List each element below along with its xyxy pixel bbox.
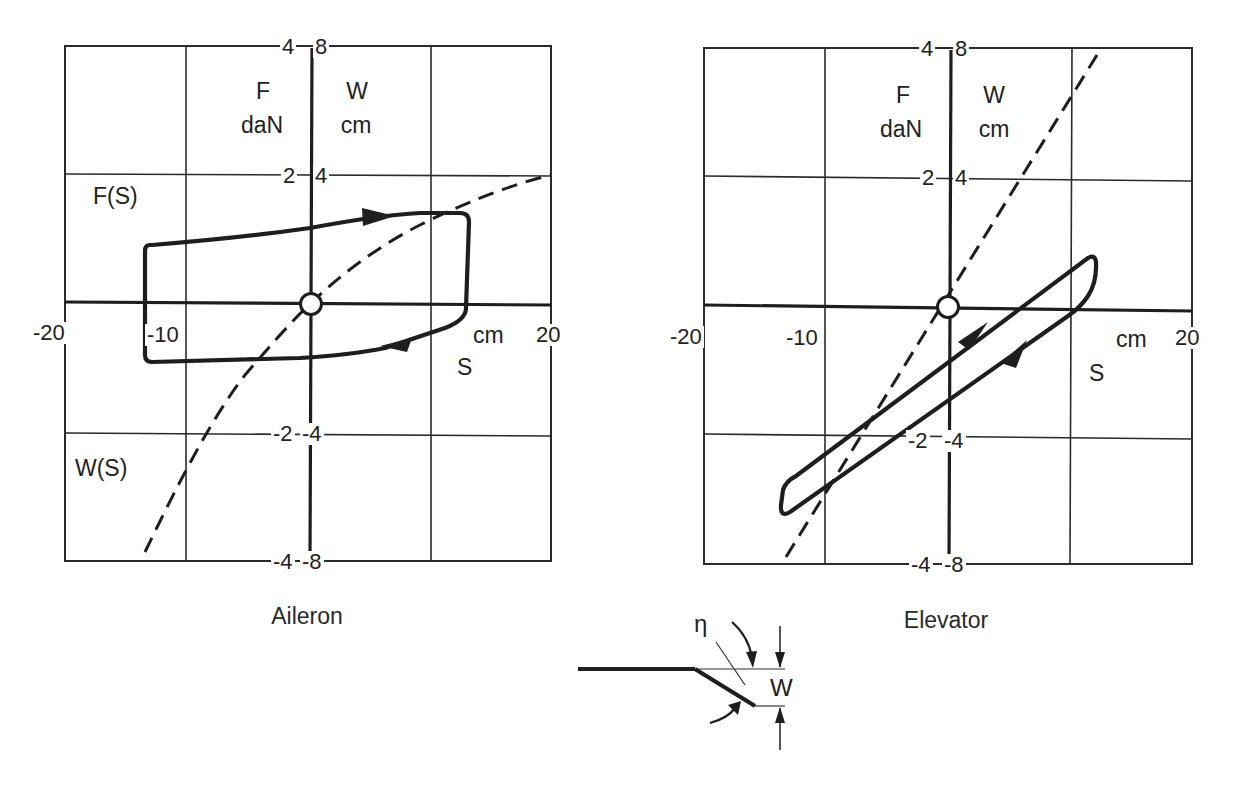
elevator-caption: Elevator: [904, 607, 988, 634]
eta-label: η: [694, 612, 707, 636]
elevator-w-tick-4: 4: [953, 167, 969, 189]
aileron-origin-marker: [301, 294, 322, 315]
deflection-inset: [578, 622, 785, 750]
elevator-f-symbol: F: [896, 84, 910, 107]
aileron-arrow-up-branch-icon: [362, 208, 395, 226]
eta-arrow-lower: [710, 708, 735, 723]
eta-arrowhead-upper-icon: [746, 651, 757, 668]
aileron-f-symbol: F: [256, 80, 270, 103]
elevator-f-tick-2: 2: [920, 167, 936, 189]
aileron-f-curve-label: F(S): [93, 185, 138, 208]
aileron-w-symbol: W: [346, 80, 368, 103]
aileron-w-tick-neg8: -8: [300, 551, 324, 573]
aileron-x-tick-neg20: -20: [31, 322, 67, 344]
elevator-w-tick-8: 8: [953, 38, 969, 60]
elevator-w-unit: cm: [979, 118, 1010, 141]
aileron-f-tick-neg4: -4: [271, 551, 295, 573]
eta-leader-line: [716, 642, 745, 685]
aileron-w-curve: [145, 175, 551, 552]
elevator-w-tick-neg4: -4: [942, 430, 966, 452]
aileron-x-tick-20: 20: [534, 324, 562, 346]
elevator-grid-x-pos10: [1070, 48, 1072, 564]
elevator-grid-y-2: [704, 176, 1192, 181]
aileron-grid-y-2: [65, 174, 551, 176]
aileron-f-tick-2: 2: [281, 165, 297, 187]
elevator-x-tick-neg20: -20: [668, 326, 704, 348]
surface-deflected-part: [695, 669, 755, 706]
aileron-w-curve-label: W(S): [75, 457, 127, 480]
elevator-origin-marker: [938, 297, 959, 318]
elevator-s-unit: cm: [1116, 328, 1147, 351]
figure-canvas: [0, 0, 1241, 789]
elevator-chart: [704, 48, 1192, 564]
aileron-f-unit: daN: [241, 114, 283, 137]
aileron-f-tick-neg2: -2: [271, 423, 295, 445]
aileron-w-tick-4: 4: [313, 165, 329, 187]
elevator-f-loop: [781, 257, 1096, 514]
w-label: W: [770, 676, 793, 700]
aileron-w-unit: cm: [341, 114, 372, 137]
w-arrowhead-upper-icon: [775, 652, 785, 668]
aileron-s-symbol: S: [457, 356, 472, 379]
aileron-f-tick-4: 4: [280, 36, 296, 58]
aileron-f-loop: [145, 213, 469, 362]
elevator-f-tick-neg4: -4: [909, 554, 933, 576]
elevator-f-tick-4: 4: [919, 38, 935, 60]
elevator-x-tick-neg10: -10: [784, 327, 820, 349]
aileron-x-tick-neg10: -10: [145, 324, 181, 346]
elevator-f-unit: daN: [880, 118, 922, 141]
aileron-s-unit: cm: [473, 324, 504, 347]
aileron-w-tick-neg4: -4: [300, 423, 324, 445]
aileron-caption: Aileron: [271, 603, 343, 630]
elevator-x-tick-20: 20: [1173, 327, 1201, 349]
elevator-f-tick-neg2: -2: [906, 430, 930, 452]
aileron-chart: [65, 46, 551, 561]
elevator-w-tick-neg8: -8: [942, 554, 966, 576]
w-arrowhead-lower-icon: [775, 707, 785, 723]
elevator-s-symbol: S: [1089, 362, 1104, 385]
elevator-w-symbol: W: [983, 84, 1005, 107]
aileron-w-tick-8: 8: [313, 36, 329, 58]
elevator-arrow-down-branch-icon: [1001, 340, 1027, 368]
